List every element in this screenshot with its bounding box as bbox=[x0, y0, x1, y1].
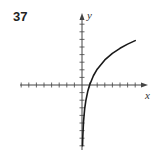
x-axis-arrow-icon bbox=[141, 83, 148, 88]
log-function-graph: xy bbox=[0, 0, 160, 154]
x-axis-label: x bbox=[144, 89, 150, 101]
function-curve bbox=[83, 41, 136, 146]
y-axis-arrow-icon bbox=[80, 13, 85, 20]
y-axis-label: y bbox=[86, 9, 92, 21]
